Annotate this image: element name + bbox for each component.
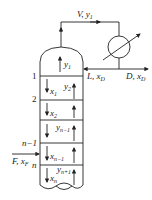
tray-number-1: 1 bbox=[32, 71, 37, 81]
column-shell bbox=[40, 47, 83, 185]
liquid-label-2: x2 bbox=[49, 108, 57, 119]
distillate-label: D, xD bbox=[125, 71, 146, 82]
column-break bbox=[40, 183, 83, 189]
reflux-label: L, xD bbox=[86, 71, 106, 82]
liquid-label-n: xn bbox=[49, 173, 57, 184]
liquid-label-1: x1 bbox=[49, 86, 57, 97]
vapor-label-n+1: yn+1 bbox=[56, 164, 71, 175]
feed-label: F, xF bbox=[11, 156, 29, 167]
vapor-label-1: y1 bbox=[63, 59, 71, 70]
vapor-overhead-line bbox=[61, 22, 119, 47]
tray-number-n: n bbox=[32, 160, 37, 170]
top-vapor-label: V, y1 bbox=[77, 9, 93, 20]
tray-number-2: 2 bbox=[32, 94, 37, 104]
tray-number-n-1: n−1 bbox=[22, 138, 37, 148]
distillation-diagram: V, y1 L, xD D, xD F, xF 1 2 n−1 n y1 y2 … bbox=[0, 0, 152, 200]
vapor-label-n-1: yn−1 bbox=[55, 122, 70, 133]
vapor-label-2: y2 bbox=[63, 81, 71, 92]
liquid-label-n-1: xn−1 bbox=[49, 151, 64, 162]
